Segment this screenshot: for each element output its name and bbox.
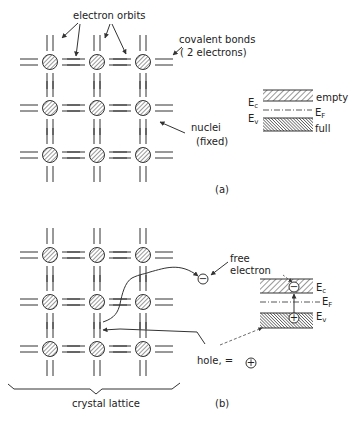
hole-symbol: + [246, 357, 256, 368]
crystal-lattice-label: crystal lattice [72, 398, 140, 409]
ec-label-b: Ec [316, 282, 326, 295]
nucleus-atom [90, 55, 105, 70]
nucleus-atom [43, 148, 58, 163]
svg-text:−: − [199, 273, 207, 284]
nucleus-atom [43, 101, 58, 116]
svg-text:+: + [247, 357, 255, 368]
nucleus-atom [136, 148, 151, 163]
free-electron-symbol: − [198, 273, 208, 284]
nuclei-label-line2: (fixed) [196, 136, 228, 147]
nucleus-atom [43, 55, 58, 70]
caption-a: (a) [215, 184, 229, 195]
lattice-a [20, 35, 173, 182]
ec-label-a: Ec [248, 97, 258, 110]
free-electron-label-arrow [211, 262, 228, 275]
free-electron-path [103, 267, 198, 322]
nuclei-label-line1: nuclei [191, 122, 221, 133]
nucleus-atom [136, 101, 151, 116]
hole-label: hole, = [197, 355, 233, 366]
svg-text:+: + [290, 312, 298, 323]
full-label: full [315, 123, 330, 134]
nucleus-atom [136, 295, 151, 310]
hole-band-arrow [220, 328, 262, 345]
ef-label-b: EF [322, 296, 332, 309]
nucleus-atom [90, 295, 105, 310]
electron-orbits-label: electron orbits [73, 10, 146, 21]
nucleus-atom [136, 55, 151, 70]
covalent-bonds-label-line1: covalent bonds [179, 34, 255, 45]
ev-label-a: Ev [248, 113, 258, 126]
svg-text:−: − [290, 281, 298, 292]
nucleus-atom [90, 101, 105, 116]
nucleus-atom [43, 295, 58, 310]
band-diagram-b: − + Ec EF Ev [260, 279, 332, 328]
nucleus-atom [43, 342, 58, 357]
nucleus-atom [136, 342, 151, 357]
nucleus-atom [136, 248, 151, 263]
nucleus-atom [90, 248, 105, 263]
nuclei-arrow [160, 122, 185, 133]
covalent-bonds-label-line2: ( 2 electrons) [180, 47, 247, 58]
ef-label-a: EF [315, 107, 325, 120]
nucleus-atom [43, 248, 58, 263]
nucleus-atom [90, 342, 105, 357]
ev-label-b: Ev [316, 311, 326, 324]
caption-b: (b) [215, 398, 229, 409]
nucleus-atom [90, 148, 105, 163]
free-electron-label-line1: free [230, 253, 250, 264]
free-electron-label-line2: electron [230, 265, 271, 276]
lattice-b [20, 228, 173, 376]
crystal-lattice-brace [8, 383, 180, 394]
band-diagram-a: Ec empty EF Ev full [248, 90, 348, 134]
empty-label: empty [316, 92, 348, 103]
hole-arrow [103, 329, 205, 344]
semiconductor-lattice-diagram: electron orbits covalent bonds ( 2 elect… [0, 0, 355, 422]
